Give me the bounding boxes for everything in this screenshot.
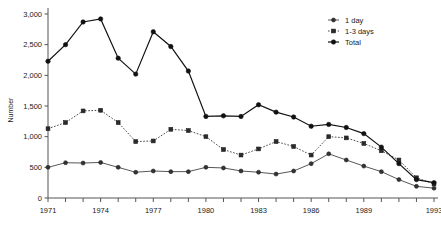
data-point (274, 110, 278, 114)
y-axis-label: Number (7, 97, 14, 123)
data-point (46, 127, 50, 131)
legend-marker-2 (331, 40, 335, 44)
data-point (397, 178, 401, 182)
line-chart: 05001,0001,5002,0002,5003,000 1971197419… (0, 0, 441, 234)
data-point (46, 59, 50, 63)
y-axis: 05001,0001,5002,0002,5003,000 (23, 8, 48, 203)
data-point (291, 115, 295, 119)
data-point (99, 108, 103, 112)
data-point (379, 170, 383, 174)
y-tick-label: 2,000 (23, 71, 42, 80)
data-point (116, 121, 120, 125)
legend-label-1: 1-3 days (345, 27, 374, 36)
y-tick-label: 1,500 (23, 102, 42, 111)
legend-label-2: Total (345, 38, 361, 47)
legend-label-0: 1 day (345, 16, 364, 25)
data-point (169, 170, 173, 174)
data-point (204, 114, 208, 118)
data-point (309, 153, 313, 157)
data-point (134, 170, 138, 174)
data-point (169, 44, 173, 48)
data-point (151, 30, 155, 34)
chart-figure: 05001,0001,5002,0002,5003,000 1971197419… (0, 0, 441, 234)
x-tick-label: 1993 (426, 206, 441, 215)
series-line-total (48, 19, 434, 183)
data-point (239, 169, 243, 173)
y-tick-label: 3,000 (23, 10, 42, 19)
data-point (239, 153, 243, 157)
data-point (274, 140, 278, 144)
series-layer (46, 17, 436, 190)
data-point (151, 139, 155, 143)
data-point (257, 170, 261, 174)
data-point (63, 42, 67, 46)
x-tick-label: 1977 (145, 206, 162, 215)
legend-marker-0 (332, 18, 336, 22)
data-point (221, 114, 225, 118)
data-point (257, 147, 261, 151)
data-point (81, 109, 85, 113)
y-tick-label: 2,500 (23, 40, 42, 49)
data-point (344, 125, 348, 129)
data-point (64, 121, 68, 125)
data-point (116, 56, 120, 60)
data-point (256, 103, 260, 107)
data-point (186, 170, 190, 174)
data-point (151, 169, 155, 173)
data-point (397, 161, 401, 165)
data-point (64, 161, 68, 165)
data-point (46, 165, 50, 169)
x-tick-label: 1986 (303, 206, 320, 215)
data-point (344, 136, 348, 140)
data-point (81, 161, 85, 165)
data-point (379, 145, 383, 149)
data-point (432, 186, 436, 190)
data-point (309, 124, 313, 128)
data-point (362, 164, 366, 168)
data-point (81, 20, 85, 24)
data-point (432, 180, 436, 184)
data-point (169, 127, 173, 131)
data-point (134, 72, 138, 76)
data-point (99, 160, 103, 164)
legend-marker-1 (332, 29, 336, 33)
data-point (134, 140, 138, 144)
data-point (292, 169, 296, 173)
data-point (116, 165, 120, 169)
data-point (204, 165, 208, 169)
data-point (327, 152, 331, 156)
data-point (221, 166, 225, 170)
x-tick-label: 1971 (40, 206, 57, 215)
x-tick-label: 1983 (250, 206, 267, 215)
data-point (344, 158, 348, 162)
data-point (204, 135, 208, 139)
data-point (362, 142, 366, 146)
data-point (292, 145, 296, 149)
y-tick-label: 500 (29, 163, 42, 172)
data-point (362, 131, 366, 135)
y-tick-label: 0 (38, 194, 42, 203)
data-point (222, 148, 226, 152)
data-point (327, 135, 331, 139)
data-point (186, 129, 190, 133)
data-point (414, 177, 418, 181)
x-tick-label: 1974 (92, 206, 109, 215)
data-point (239, 114, 243, 118)
data-point (309, 162, 313, 166)
data-point (414, 184, 418, 188)
data-point (274, 172, 278, 176)
chart-legend: 1 day1-3 daysTotal (328, 16, 374, 47)
x-tick-label: 1980 (198, 206, 215, 215)
data-point (327, 122, 331, 126)
data-point (98, 17, 102, 21)
data-point (186, 69, 190, 73)
y-tick-label: 1,000 (23, 132, 42, 141)
x-axis: 19711974197719801983198619891993 (40, 198, 441, 215)
x-tick-label: 1989 (355, 206, 372, 215)
